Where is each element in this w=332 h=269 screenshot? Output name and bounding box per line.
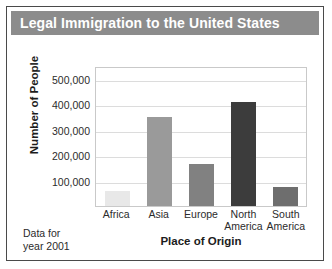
note-line-2: year 2001 [23,240,70,253]
chart-area: Number of People 100,000200,000300,00040… [11,37,319,256]
chart-card: Legal Immigration to the United States N… [6,6,324,261]
y-axis-tick-labels: 100,000200,000300,000400,000500,000 [37,67,93,207]
data-year-note: Data for year 2001 [23,227,70,252]
y-axis-tick-label: 300,000 [52,125,90,137]
y-axis-tick-label: 100,000 [52,176,90,188]
x-axis-tick-label: NorthAmerica [222,209,264,232]
x-axis-tick-label: Europe [180,209,222,232]
y-axis-tick-label: 200,000 [52,150,90,162]
y-axis-tick-label: 400,000 [52,99,90,111]
page-title: Legal Immigration to the United States [11,15,280,31]
bar [189,164,214,206]
chart-title-bar: Legal Immigration to the United States [11,11,319,35]
bar [147,117,172,206]
bar [105,191,130,206]
plot-area [95,67,307,207]
bar [273,187,298,206]
x-axis-tick-label: Asia [137,209,179,232]
y-axis-tick-label: 500,000 [52,74,90,86]
x-axis-title: Place of Origin [95,235,307,247]
bar [231,102,256,206]
note-line-1: Data for [23,227,70,240]
x-axis-tick-labels: AfricaAsiaEuropeNorthAmericaSouthAmerica [95,209,307,232]
x-axis-tick-label: Africa [95,209,137,232]
x-axis-tick-label: SouthAmerica [265,209,307,232]
bar-series [96,68,306,206]
